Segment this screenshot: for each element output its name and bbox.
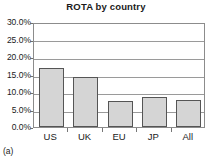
figure-caption: (a) (3, 146, 13, 157)
chart-title: ROTA by country (0, 1, 212, 13)
y-axis-tick-label: 20.0% (0, 53, 31, 62)
y-axis-tick-label: 30.0% (0, 18, 31, 27)
y-axis-tick-mark (30, 128, 33, 129)
y-axis-tick-label: 10.0% (0, 88, 31, 97)
x-axis-tick-label-jp: JP (136, 131, 170, 143)
x-axis-tick-label-eu: EU (102, 131, 136, 143)
y-axis-tick-label: 15.0% (0, 71, 31, 80)
y-axis-tick-label: 0.0% (0, 123, 31, 132)
bar-all (176, 100, 201, 127)
bar-jp (142, 97, 167, 127)
bar-eu (108, 101, 133, 127)
bar-uk (73, 77, 98, 127)
bar-us (39, 68, 64, 128)
y-axis-tick-label: 5.0% (0, 106, 31, 115)
y-axis-tick-labels: 0.0%5.0%10.0%15.0%20.0%25.0%30.0% (0, 0, 31, 162)
figure-panel: ROTA by country 0.0%5.0%10.0%15.0%20.0%2… (0, 0, 212, 162)
plot-area (33, 23, 205, 128)
gridline (34, 59, 204, 60)
x-axis-tick-label-all: All (171, 131, 205, 143)
y-axis-tick-label: 25.0% (0, 36, 31, 45)
x-axis-tick-label-us: US (33, 131, 67, 143)
x-axis-tick-label-uk: UK (67, 131, 101, 143)
gridline (34, 41, 204, 42)
